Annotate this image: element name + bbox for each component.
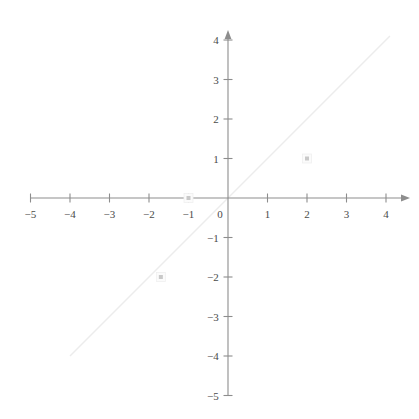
y-axis-tick-label: −5 bbox=[207, 390, 219, 401]
y-axis-tick-label: 1 bbox=[213, 153, 219, 164]
y-axis-tick-label: −4 bbox=[207, 351, 219, 362]
x-axis-arrowhead bbox=[401, 195, 410, 202]
coordinate-plane-figure: −5−4−3−2−101234 4321−1−2−3−4−5 bbox=[0, 0, 419, 419]
y-axis-tick-label: 3 bbox=[213, 74, 219, 85]
y-axis-tick-label: −2 bbox=[207, 272, 219, 283]
y-axis-arrowhead bbox=[225, 30, 232, 39]
y-axis-tick-label: −3 bbox=[207, 311, 219, 322]
x-axis-tick-label: 2 bbox=[304, 209, 310, 220]
data-point-marker bbox=[184, 194, 193, 203]
data-point-marker bbox=[156, 273, 165, 282]
x-axis-tick-label: −2 bbox=[143, 209, 155, 220]
x-axis-tick-label: −1 bbox=[182, 209, 194, 220]
x-axis-tick-label: 0 bbox=[217, 209, 223, 220]
x-axis-tick-label: −4 bbox=[64, 209, 76, 220]
y-axis-tick-label: −1 bbox=[207, 232, 219, 243]
identity-line-group bbox=[70, 36, 390, 356]
data-point-markers bbox=[156, 154, 311, 282]
x-axis-tick-label: 4 bbox=[383, 209, 389, 220]
x-axis-tick-label: 3 bbox=[344, 209, 350, 220]
y-axis-tick-label: 2 bbox=[213, 114, 219, 125]
x-axis-tick-label: −5 bbox=[24, 209, 36, 220]
x-axis-tick-label: −3 bbox=[103, 209, 115, 220]
x-axis-tick-label: 1 bbox=[265, 209, 271, 220]
data-point-marker bbox=[303, 154, 312, 163]
identity-line bbox=[70, 36, 390, 356]
y-axis-tick-label: 4 bbox=[213, 35, 219, 46]
